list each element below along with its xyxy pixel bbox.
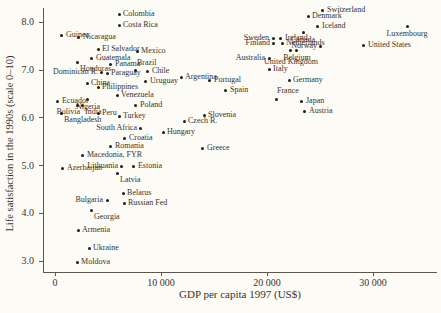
point-label: Azerbaijan <box>67 163 102 172</box>
data-point <box>97 48 100 51</box>
y-axis-title: Life satisfaction in the 1990s (scale 0–… <box>4 44 15 244</box>
data-point <box>56 100 59 103</box>
data-point <box>162 131 165 134</box>
point-label: Japan <box>306 96 324 105</box>
data-point <box>146 70 149 73</box>
y-tick-label: 7.0 <box>12 64 34 75</box>
point-label: Belarus <box>127 188 151 197</box>
point-label: Chile <box>152 66 169 75</box>
data-point <box>272 42 275 45</box>
data-point <box>136 50 139 53</box>
point-label: Portugal <box>214 75 241 84</box>
data-point <box>288 79 291 82</box>
data-point <box>122 192 125 195</box>
data-point <box>116 172 119 175</box>
data-point <box>275 98 278 101</box>
point-label: South Africa <box>96 123 137 132</box>
point-label: United States <box>368 40 411 49</box>
data-point <box>88 247 91 250</box>
scatter-plot: 8.07.06.05.04.03.0010 00020 00030 000Col… <box>0 0 441 313</box>
data-point <box>123 137 126 140</box>
data-point <box>295 49 298 52</box>
y-axis-spine <box>43 8 44 272</box>
point-label: Peru <box>102 108 117 117</box>
data-point <box>76 261 79 264</box>
x-tick <box>55 272 56 276</box>
point-label: Argentina <box>185 72 217 81</box>
data-point <box>109 63 112 66</box>
point-label: Finland <box>246 38 270 47</box>
y-tick-label: 4.0 <box>12 207 34 218</box>
data-point <box>144 80 147 83</box>
data-point <box>268 68 271 71</box>
data-point <box>303 110 306 113</box>
x-axis-spine <box>43 272 437 273</box>
data-point <box>224 89 227 92</box>
x-tick-label: 10 000 <box>135 277 187 288</box>
point-label: Moldova <box>81 257 110 266</box>
point-label: Mexico <box>141 46 165 55</box>
y-tick <box>39 22 43 23</box>
point-label: Poland <box>140 100 162 109</box>
point-label: Colombia <box>123 9 155 18</box>
data-point <box>406 25 409 28</box>
data-point <box>90 209 93 212</box>
data-point <box>307 15 310 18</box>
data-point <box>279 37 282 40</box>
point-label: Estonia <box>138 161 162 170</box>
data-point <box>180 76 183 79</box>
data-point <box>316 25 319 28</box>
data-point <box>132 165 135 168</box>
point-label: Armenia <box>82 225 110 234</box>
point-label: Spain <box>230 85 248 94</box>
data-point <box>97 86 100 89</box>
data-point <box>61 167 64 170</box>
y-tick-label: 6.0 <box>12 112 34 123</box>
x-tick <box>267 272 268 276</box>
data-point <box>109 145 112 148</box>
point-label: Nicaragua <box>83 32 116 41</box>
point-label: Latvia <box>120 175 140 184</box>
point-label: Macedonia, FYR <box>87 150 142 159</box>
y-tick <box>39 70 43 71</box>
point-label: Hungary <box>167 127 195 136</box>
point-label: Germany <box>293 75 323 84</box>
point-label: Australia <box>236 53 265 62</box>
point-label: France <box>277 86 299 95</box>
data-point <box>118 115 121 118</box>
point-label: Georgia <box>94 212 120 221</box>
point-label: Iceland <box>322 21 346 30</box>
data-point <box>90 57 93 60</box>
data-point <box>123 202 126 205</box>
data-point <box>289 49 292 52</box>
data-point <box>77 229 80 232</box>
point-label: Ukraine <box>93 243 119 252</box>
y-tick <box>39 213 43 214</box>
x-axis-title: GDP per capita 1997 (US$) <box>43 288 437 300</box>
data-point <box>362 44 365 47</box>
y-tick-label: 8.0 <box>12 16 34 27</box>
point-label: Costa Rica <box>123 20 158 29</box>
y-tick <box>39 165 43 166</box>
point-label: Dominican R. <box>53 67 98 76</box>
x-tick-label: 30 000 <box>347 277 399 288</box>
x-tick <box>161 272 162 276</box>
y-tick <box>39 261 43 262</box>
data-point <box>81 154 84 157</box>
data-point <box>76 61 79 64</box>
point-label: Turkey <box>123 111 146 120</box>
point-label: Uruguay <box>150 76 178 85</box>
point-label: Bulgaria <box>76 195 104 204</box>
x-tick-label: 0 <box>29 277 81 288</box>
data-point <box>86 82 89 85</box>
data-point <box>106 199 109 202</box>
y-tick-label: 5.0 <box>12 160 34 171</box>
data-point <box>116 94 119 97</box>
data-point <box>120 165 123 168</box>
data-point <box>272 37 275 40</box>
x-tick-label: 20 000 <box>241 277 293 288</box>
data-point <box>118 13 121 16</box>
point-label: Luxembourg <box>386 29 427 38</box>
data-point <box>300 100 303 103</box>
point-label: Paraguay <box>111 68 141 77</box>
